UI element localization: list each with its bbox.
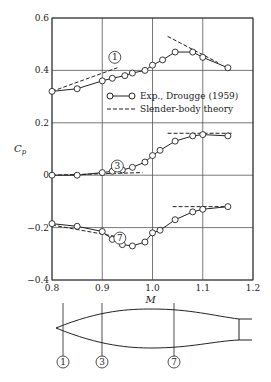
station-number: 7 (117, 233, 123, 243)
legend-exp: Exp., Drougge (1959) (140, 91, 238, 101)
y-tick-label: −0.2 (27, 223, 49, 233)
data-point (129, 164, 135, 170)
data-point (109, 75, 115, 81)
data-point (99, 170, 105, 176)
body-station-number: 3 (99, 357, 105, 367)
x-axis-label: M (144, 294, 156, 305)
theory-lines (52, 36, 233, 236)
body-station-number: 7 (171, 357, 177, 367)
data-point (157, 227, 163, 233)
data-point (172, 217, 178, 223)
chart-svg: 0.80.91.01.11.20.60.40.20−0.2−0.4MCp 137… (0, 0, 271, 382)
legend: Exp., Drougge (1959)Slender-body theory (107, 91, 238, 114)
data-point (129, 243, 135, 249)
data-point (150, 62, 156, 68)
data-point (172, 138, 178, 144)
exp-line (52, 135, 228, 176)
x-tick-label: 1.1 (196, 283, 210, 293)
body-outline-bottom (56, 328, 239, 348)
data-point (225, 65, 231, 71)
data-point (150, 230, 156, 236)
body-outline-top (56, 309, 239, 328)
data-point (142, 239, 148, 245)
data-point (200, 206, 206, 212)
y-tick-label: 0.6 (35, 13, 50, 23)
data-point (74, 223, 80, 229)
y-tick-label: −0.4 (27, 275, 49, 285)
y-tick-label: 0 (43, 170, 49, 180)
data-point (225, 204, 231, 210)
data-point (74, 172, 80, 178)
data-point (49, 221, 55, 227)
x-tick-label: 1.0 (145, 283, 160, 293)
body-diagram: 137 (56, 303, 252, 368)
x-tick-label: 1.2 (246, 283, 260, 293)
data-point (142, 159, 148, 165)
legend-theory: Slender-body theory (140, 104, 234, 114)
data-point (49, 88, 55, 94)
data-point (122, 73, 128, 79)
body-station-number: 1 (60, 357, 66, 367)
y-tick-label: 0.4 (35, 65, 50, 75)
data-point (172, 49, 178, 55)
y-tick-label: 0.2 (35, 118, 49, 128)
axes: 0.80.91.01.11.20.60.40.20−0.2−0.4MCp (14, 13, 260, 305)
data-point (142, 67, 148, 73)
data-point (150, 153, 156, 159)
data-point (200, 132, 206, 138)
data-point (225, 133, 231, 139)
data-point (200, 54, 206, 60)
station-number: 1 (112, 52, 118, 62)
data-point (99, 78, 105, 84)
data-point (157, 147, 163, 153)
y-axis-label: Cp (14, 143, 27, 156)
x-tick-label: 0.9 (95, 283, 110, 293)
data-point (190, 133, 196, 139)
data-point (190, 49, 196, 55)
data-point (99, 229, 105, 235)
data-point (74, 86, 80, 92)
data-point (49, 172, 55, 178)
data-point (129, 70, 135, 76)
exp-series (49, 49, 231, 249)
data-point (190, 209, 196, 215)
data-point (160, 57, 166, 63)
station-number: 3 (114, 161, 120, 171)
grid (52, 18, 253, 280)
theory-line (52, 225, 117, 237)
